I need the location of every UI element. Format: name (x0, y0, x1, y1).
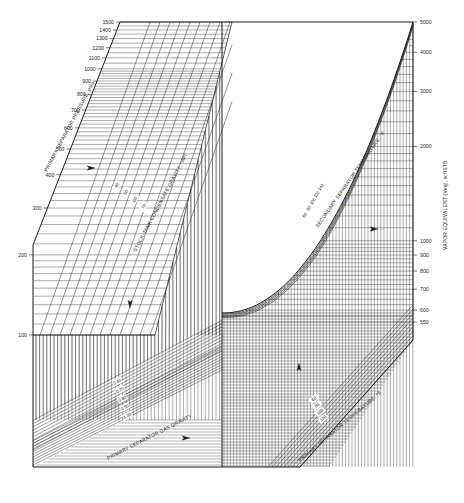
pressure-tick-label: 300 (33, 205, 42, 211)
veq-tick-label: 700 (420, 286, 429, 292)
veq-tick-label: 4000 (420, 49, 432, 55)
secondary-temp-curve (222, 27, 413, 318)
veq-tick-label: 800 (420, 268, 429, 274)
pressure-tick-label: 1400 (99, 27, 111, 33)
arrow-right-icon (87, 166, 95, 170)
primary-temp-gridline (276, 314, 413, 467)
pressure-tick-label: 200 (18, 252, 27, 258)
pressure-tick-label: 1500 (102, 19, 114, 25)
veq-tick-label: 550 (420, 319, 429, 325)
veq-tick-label: 1000 (420, 238, 432, 244)
api-gridline (140, 73, 232, 335)
pressure-tick-label: 1300 (96, 35, 108, 41)
secondary-temp-axis-title: SECONDARY SEPARATOR TEMPERATURE, °F (314, 130, 386, 229)
secondary-temp-curve (222, 22, 413, 313)
veq-tick-label: 3000 (420, 88, 432, 94)
vapor-equivalent-axis-title: VAPOR EQUIVALENT (Veq), scf/STB (442, 160, 448, 250)
secondary-temp-curve (222, 24, 413, 315)
pressure-tick-label: 1000 (84, 66, 96, 72)
api-gridline (130, 45, 232, 335)
veq-tick-label: 600 (420, 307, 429, 313)
veq-tick-label: 2000 (420, 143, 432, 149)
veq-tick-label: 5000 (420, 19, 432, 25)
secondary-temp-curve (222, 25, 413, 316)
nomograph-chart: 1002003004005006007008009001000110012001… (0, 0, 464, 503)
arrow-down-icon (128, 300, 132, 308)
pressure-tick-label: 1200 (92, 45, 104, 51)
pressure-tick-label: 1100 (89, 55, 100, 61)
primary-temp-gridline (280, 318, 413, 467)
label-layer: 1002003004005006007008009001000110012001… (18, 19, 431, 440)
primary-temp-gridline (268, 305, 413, 467)
veq-tick-label: 900 (420, 252, 429, 258)
pressure-tick-label: 100 (18, 332, 27, 338)
